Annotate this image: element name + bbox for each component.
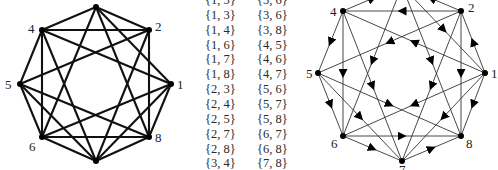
graph-figure: 124568 {1, 3}{1, 3}{1, 4}{1, 6}{1, 7}{1,… <box>0 0 498 170</box>
edge-table-cell: {4, 6} <box>257 52 288 66</box>
undirected-graph: 124568 <box>5 4 184 164</box>
directed_graph-node-5 <box>315 70 321 76</box>
edge-table-cell: {6, 7} <box>257 127 288 141</box>
arc-6-to-7 <box>343 136 402 161</box>
edge-table-cell: {7, 8} <box>257 156 288 170</box>
directed_graph-node-label: 4 <box>330 4 337 19</box>
edge-table-cell: {2, 3} <box>205 82 236 96</box>
undirected_graph-node-5 <box>17 81 23 87</box>
directed_graph-node-label: 5 <box>306 66 313 81</box>
edge-1-7 <box>96 84 171 161</box>
undirected_graph-node-8 <box>146 134 152 140</box>
edge-table-cell: {1, 8} <box>205 67 236 81</box>
directed_graph-node-label: 1 <box>491 66 498 81</box>
edge-list-table: {1, 3}{1, 3}{1, 4}{1, 6}{1, 7}{1, 8}{2, … <box>205 0 288 170</box>
arc-1-to-7 <box>402 73 485 161</box>
undirected_graph-node-label: 4 <box>28 21 35 36</box>
edge-table-cell: {2, 4} <box>205 97 236 111</box>
directed_graph-node-4 <box>340 8 346 14</box>
directed_graph-node-label: 2 <box>468 0 475 15</box>
edge-table-cell: {3, 4} <box>205 156 236 170</box>
directed-nodes: 1245678 <box>306 0 498 170</box>
undirected_graph-node-label: 1 <box>177 77 184 92</box>
edge-table-cell: {2, 7} <box>205 127 236 141</box>
arc-2-to-7 <box>402 11 461 161</box>
edge-table-cell: {1, 3} <box>205 8 236 22</box>
undirected_graph-node-4 <box>39 27 45 33</box>
edge-table-cell: {4, 5} <box>257 38 288 52</box>
directed_graph-node-8 <box>458 133 464 139</box>
edge-table-cell: {1, 7} <box>205 52 236 66</box>
undirected_graph-node-6 <box>39 134 45 140</box>
edge-table-cell: {5, 7} <box>257 97 288 111</box>
directed_graph-node-label: 7 <box>399 162 406 170</box>
edge-table-cell: {2, 8} <box>205 142 236 156</box>
edge-table-cell: {5, 8} <box>257 112 288 126</box>
undirected_graph-node-7 <box>93 158 99 164</box>
edge-table-cell: {1, 6} <box>205 38 236 52</box>
edge-table-cell: {3, 6} <box>257 0 288 7</box>
undirected_graph-node-label: 8 <box>155 130 162 145</box>
undirected_graph-node-label: 5 <box>5 77 12 92</box>
edge-table-cell: {1, 3} <box>205 0 236 7</box>
arc-7-to-8 <box>402 136 461 161</box>
edge-table-cell: {3, 8} <box>257 23 288 37</box>
directed_graph-node-6 <box>340 133 346 139</box>
edge-table-cell: {2, 5} <box>205 112 236 126</box>
edge-table-cell: {3, 6} <box>257 8 288 22</box>
undirected_graph-node-2 <box>146 27 152 33</box>
undirected-nodes: 124568 <box>5 4 184 164</box>
directed-graph: 1245678 <box>306 0 498 170</box>
undirected_graph-node-1 <box>168 81 174 87</box>
arc-1-to-4 <box>343 11 485 73</box>
edge-table-cell: {1, 4} <box>205 23 236 37</box>
directed_graph-node-1 <box>482 70 488 76</box>
directed_graph-node-label: 8 <box>466 136 473 151</box>
edge-table-cell: {4, 7} <box>257 67 288 81</box>
arc-3-to-6 <box>343 0 402 136</box>
directed_graph-node-label: 6 <box>331 136 338 151</box>
edge-table-cell: {6, 8} <box>257 142 288 156</box>
arc-3-to-8 <box>402 0 461 136</box>
directed_graph-node-2 <box>458 8 464 14</box>
arc-4-to-7 <box>343 11 402 161</box>
undirected_graph-node-label: 6 <box>29 139 36 154</box>
undirected_graph-node-3 <box>93 4 99 10</box>
edge-table-cell: {5, 6} <box>257 82 288 96</box>
undirected_graph-node-label: 2 <box>155 19 162 34</box>
